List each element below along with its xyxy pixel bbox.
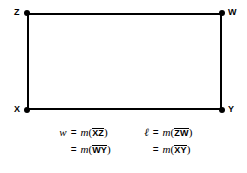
vertex-dot-x [24, 107, 30, 113]
equation-line: = m ( XY ) [137, 143, 193, 157]
close-paren: ) [187, 143, 191, 157]
vertex-label-y: Y [228, 105, 234, 114]
vertex-dot-z [24, 10, 30, 16]
measure-function: m [163, 126, 171, 140]
equation-group-width: w = m ( XZ ) = m ( WY ) [55, 126, 111, 157]
equation-group-length: ℓ = m ( ZW ) = m ( XY ) [137, 126, 193, 157]
close-paren: ) [104, 126, 108, 140]
segment-label: XY [174, 145, 186, 155]
segment-label: XZ [92, 128, 104, 138]
equation-area: w = m ( XZ ) = m ( WY ) ℓ = m ( [0, 126, 247, 157]
segment-label: ZW [174, 128, 188, 138]
equals-sign: = [67, 144, 81, 157]
measure-function: m [81, 126, 89, 140]
equals-sign: = [149, 144, 163, 157]
vertex-label-x: X [14, 105, 20, 114]
vertex-dot-y [219, 107, 225, 113]
measure-function: m [81, 143, 89, 157]
equation-lhs: ℓ [137, 126, 149, 140]
measure-function: m [163, 143, 171, 157]
vertex-label-w: W [228, 8, 237, 17]
close-paren: ) [189, 126, 193, 140]
equation-line: = m ( WY ) [55, 143, 111, 157]
equation-lhs: w [55, 126, 67, 140]
equation-line: ℓ = m ( ZW ) [137, 126, 193, 140]
segment-label: WY [92, 145, 107, 155]
equals-sign: = [67, 127, 81, 140]
close-paren: ) [107, 143, 111, 157]
vertex-label-z: Z [14, 8, 20, 17]
rectangle-shape [27, 13, 222, 110]
geometry-figure: Z W X Y w = m ( XZ ) = m ( WY ) ℓ [0, 0, 247, 173]
equation-line: w = m ( XZ ) [55, 126, 111, 140]
vertex-dot-w [219, 10, 225, 16]
equals-sign: = [149, 127, 163, 140]
